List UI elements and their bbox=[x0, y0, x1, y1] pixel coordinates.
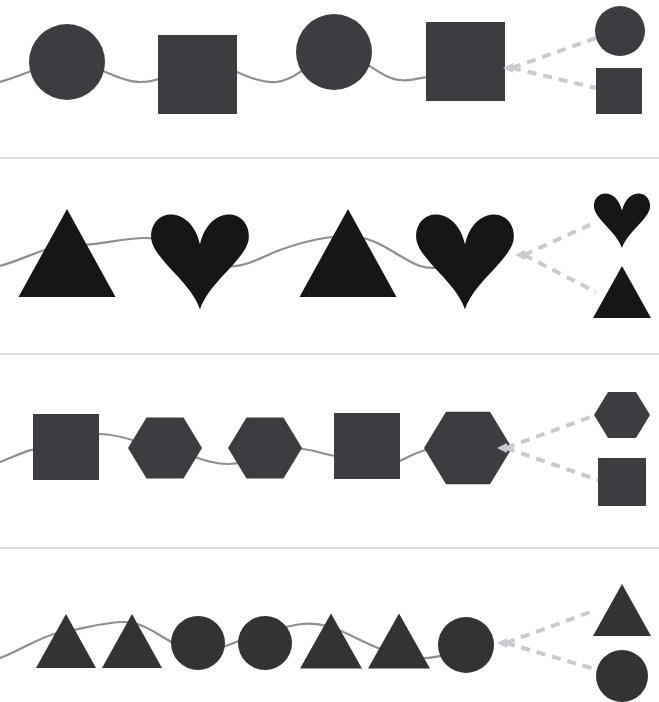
row-4-dashed-connector-2 bbox=[506, 643, 598, 670]
row-2-sequence-shape-3-triangle[interactable] bbox=[300, 209, 397, 297]
row-group-row-2 bbox=[0, 194, 651, 318]
row-3-sequence-shape-1-square[interactable] bbox=[33, 414, 99, 480]
row-1-dashed-connector-2 bbox=[512, 68, 596, 88]
shape-sequence-svg bbox=[0, 0, 659, 702]
row-4-sequence-shape-5-triangle[interactable] bbox=[300, 614, 362, 669]
row-4-choice-arrow-icon bbox=[497, 638, 507, 648]
row-1-sequence-shape-3-circle[interactable] bbox=[296, 14, 372, 90]
row-3-sequence-shape-4-square[interactable] bbox=[334, 413, 400, 479]
row-1-sequence-shape-2-square[interactable] bbox=[158, 35, 237, 114]
row-4-sequence-shape-3-circle[interactable] bbox=[171, 616, 225, 670]
row-4-choice-circle[interactable] bbox=[596, 650, 648, 702]
row-3-sequence-shape-3-hexagon[interactable] bbox=[228, 418, 302, 479]
row-3-choice-hexagon[interactable] bbox=[594, 392, 650, 438]
row-4-sequence-shape-1-triangle[interactable] bbox=[36, 614, 96, 668]
row-4-sequence-shape-6-triangle[interactable] bbox=[368, 614, 430, 669]
row-1-choice-circle[interactable] bbox=[595, 6, 645, 56]
row-group-row-1 bbox=[0, 6, 645, 114]
row-2-choice-triangle[interactable] bbox=[593, 266, 651, 318]
row-2-choice-heart[interactable] bbox=[594, 194, 650, 249]
puzzle-canvas bbox=[0, 0, 659, 702]
row-3-choice-square[interactable] bbox=[598, 458, 646, 506]
row-group-row-4 bbox=[0, 584, 651, 702]
row-4-dashed-connector-1 bbox=[506, 610, 596, 643]
row-3-dashed-connector-2 bbox=[506, 448, 598, 480]
row-group-row-3 bbox=[0, 392, 650, 506]
row-1-sequence-shape-1-circle[interactable] bbox=[29, 24, 105, 100]
row-4-sequence-shape-7-circle[interactable] bbox=[438, 617, 494, 673]
row-2-choice-arrow-icon bbox=[515, 250, 525, 260]
row-2-dashed-connector-1 bbox=[524, 222, 596, 255]
row-1-sequence-shape-4-square[interactable] bbox=[426, 22, 505, 101]
row-1-dashed-connector-1 bbox=[512, 38, 596, 68]
row-3-dashed-connector-1 bbox=[506, 415, 596, 448]
row-2-sequence-shape-4-heart[interactable] bbox=[416, 215, 514, 310]
row-4-choice-triangle[interactable] bbox=[593, 584, 651, 636]
row-2-dashed-connector-2 bbox=[524, 255, 596, 292]
row-4-sequence-shape-4-circle[interactable] bbox=[238, 616, 292, 670]
row-2-sequence-shape-2-heart[interactable] bbox=[151, 215, 249, 310]
row-2-sequence-shape-1-triangle[interactable] bbox=[19, 209, 116, 297]
row-1-choice-square[interactable] bbox=[596, 68, 642, 114]
row-3-sequence-shape-2-hexagon[interactable] bbox=[128, 418, 202, 479]
